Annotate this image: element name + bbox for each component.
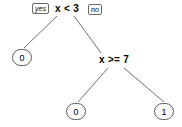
edge-label-yes: yes — [32, 3, 49, 14]
edge-root-to-inner-right — [74, 16, 101, 53]
leaf-node-left: 0 — [12, 49, 32, 66]
node-inner-right-condition: x >= 7 — [99, 54, 129, 66]
leaf-node-middle: 0 — [66, 103, 86, 120]
decision-tree-diagram: yes x < 3 no 0 x >= 7 0 1 — [0, 0, 182, 127]
edge-inner-right-to-leaf-mid — [78, 68, 108, 102]
edge-label-no: no — [88, 4, 102, 15]
edge-inner-right-to-leaf-right — [124, 68, 164, 102]
leaf-node-right: 1 — [154, 103, 174, 120]
node-root-condition: x < 3 — [55, 3, 79, 15]
edge-root-to-leaf-left — [24, 16, 57, 48]
